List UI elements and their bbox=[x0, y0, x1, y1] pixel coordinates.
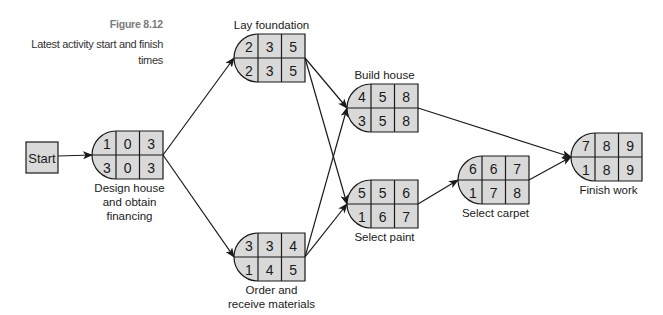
cell-bottom-2: 8 bbox=[513, 185, 521, 201]
cell-bottom-2: 8 bbox=[402, 113, 410, 129]
cell-top-2: 6 bbox=[402, 185, 410, 201]
edge-materials-to-paint bbox=[305, 204, 347, 257]
cell-bottom-2: 7 bbox=[402, 209, 410, 225]
cell-top-1: 0 bbox=[124, 136, 132, 152]
activity-node-foundation: 235235Lay foundation bbox=[234, 19, 309, 82]
cell-bottom-1: 6 bbox=[379, 209, 387, 225]
cell-bottom-0: 1 bbox=[469, 185, 477, 201]
cell-bottom-1: 5 bbox=[379, 113, 387, 129]
cell-bottom-2: 5 bbox=[289, 63, 297, 79]
cell-top-0: 3 bbox=[245, 238, 253, 254]
cell-top-0: 7 bbox=[582, 138, 590, 154]
edge-paint-to-carpet bbox=[418, 180, 458, 204]
cell-top-1: 6 bbox=[490, 161, 498, 177]
cell-top-1: 3 bbox=[266, 39, 274, 55]
cell-bottom-1: 3 bbox=[266, 63, 274, 79]
cell-top-0: 4 bbox=[358, 89, 366, 105]
edge-design-to-materials bbox=[163, 155, 234, 257]
cell-top-2: 8 bbox=[402, 89, 410, 105]
cell-bottom-0: 3 bbox=[358, 113, 366, 129]
cell-bottom-1: 0 bbox=[124, 160, 132, 176]
edge-design-to-foundation bbox=[163, 58, 234, 155]
activity-node-build: 458358Build house bbox=[347, 69, 418, 132]
node-label: Order and bbox=[246, 284, 298, 296]
cell-bottom-1: 4 bbox=[266, 262, 274, 278]
edge-start-to-design bbox=[58, 155, 92, 156]
activity-node-finish: 789189Finish work bbox=[571, 133, 642, 196]
activity-node-design: 103303Design houseand obtainfinancing bbox=[92, 131, 165, 222]
node-label: and obtain bbox=[103, 196, 157, 208]
cell-bottom-0: 2 bbox=[245, 63, 253, 79]
cell-top-1: 5 bbox=[379, 89, 387, 105]
cell-top-0: 1 bbox=[103, 136, 111, 152]
cell-bottom-1: 7 bbox=[490, 185, 498, 201]
cell-bottom-0: 1 bbox=[582, 162, 590, 178]
cell-top-1: 5 bbox=[379, 185, 387, 201]
network-diagram: Start 103303Design houseand obtainfinanc… bbox=[0, 0, 663, 315]
cell-bottom-2: 9 bbox=[626, 162, 634, 178]
cell-top-2: 5 bbox=[289, 39, 297, 55]
node-label: financing bbox=[106, 210, 152, 222]
start-node: Start bbox=[26, 142, 58, 173]
cell-bottom-0: 1 bbox=[358, 209, 366, 225]
cell-top-2: 7 bbox=[513, 161, 521, 177]
cell-bottom-2: 3 bbox=[147, 160, 155, 176]
cell-top-1: 8 bbox=[603, 138, 611, 154]
cell-top-2: 9 bbox=[626, 138, 634, 154]
nodes: Start 103303Design houseand obtainfinanc… bbox=[26, 19, 642, 310]
edge-build-to-finish bbox=[418, 108, 571, 157]
node-label: Finish work bbox=[579, 184, 637, 196]
edge-foundation-to-build bbox=[305, 58, 347, 108]
activity-node-materials: 334145Order andreceive materials bbox=[228, 233, 315, 310]
edge-carpet-to-finish bbox=[529, 157, 571, 180]
cell-top-1: 3 bbox=[266, 238, 274, 254]
cell-bottom-1: 8 bbox=[603, 162, 611, 178]
node-label: Select paint bbox=[354, 231, 415, 243]
node-label: Lay foundation bbox=[234, 19, 309, 31]
cell-top-2: 3 bbox=[147, 136, 155, 152]
cell-top-2: 4 bbox=[289, 238, 297, 254]
activity-node-carpet: 667178Select carpet bbox=[458, 156, 530, 219]
cell-bottom-0: 3 bbox=[103, 160, 111, 176]
start-label: Start bbox=[28, 151, 56, 166]
node-label: Build house bbox=[354, 69, 414, 81]
node-label: Select carpet bbox=[462, 207, 530, 219]
node-label: receive materials bbox=[228, 298, 315, 310]
cell-top-0: 6 bbox=[469, 161, 477, 177]
node-label: Design house bbox=[94, 182, 164, 194]
activity-node-paint: 556167Select paint bbox=[347, 180, 418, 243]
cell-top-0: 2 bbox=[245, 39, 253, 55]
cell-bottom-2: 5 bbox=[289, 262, 297, 278]
cell-top-0: 5 bbox=[358, 185, 366, 201]
cell-bottom-0: 1 bbox=[245, 262, 253, 278]
